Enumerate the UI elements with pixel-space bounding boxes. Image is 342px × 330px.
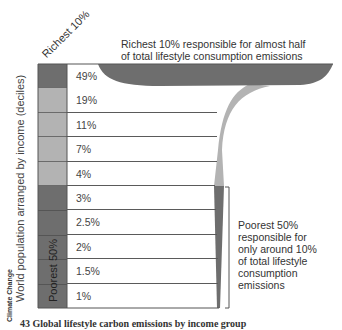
funnel-middle <box>214 84 270 186</box>
row-label: 2% <box>67 235 218 259</box>
poorest-annotation-line: emissions <box>238 279 317 291</box>
poorest-annotation-line: consumption <box>238 267 317 279</box>
poorest-bracket <box>225 187 229 308</box>
row-label: 1.5% <box>67 259 218 283</box>
row-label: 4% <box>67 162 215 186</box>
row-label: 11% <box>67 113 217 137</box>
richest-annotation-line1: Richest 10% responsible for almost half <box>121 38 305 50</box>
poorest-annotation-line: Poorest 50% <box>238 219 317 231</box>
row-label: 7% <box>67 137 217 161</box>
row-label: 1% <box>67 284 218 308</box>
poorest-annotation-line: of total lifestyle <box>238 255 317 267</box>
richest-annotation-line2: of total lifestyle consumption emissions <box>121 50 303 62</box>
poorest-annotation-line: only around 10% <box>238 243 317 255</box>
figure-caption: 43 Global lifestyle carbon emissions by … <box>20 318 246 330</box>
row-label: 3% <box>67 186 216 210</box>
row-label: 19% <box>67 88 217 112</box>
poorest-annotation: Poorest 50% responsible for only around … <box>238 219 317 291</box>
poorest-annotation-line: responsible for <box>238 231 317 243</box>
funnel-richest <box>98 64 333 86</box>
row-label: 2.5% <box>67 210 217 234</box>
row-label: 49% <box>67 64 101 88</box>
